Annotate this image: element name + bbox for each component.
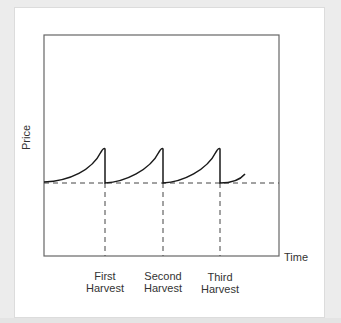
plot-frame bbox=[44, 35, 279, 256]
harvest-label-first: FirstHarvest bbox=[80, 270, 130, 294]
x-axis-label: Time bbox=[284, 251, 308, 263]
harvest-label-second: SecondHarvest bbox=[138, 270, 188, 294]
harvest-label-third: ThirdHarvest bbox=[195, 271, 245, 295]
y-axis-label: Price bbox=[20, 125, 32, 150]
price-curve bbox=[44, 148, 245, 183]
